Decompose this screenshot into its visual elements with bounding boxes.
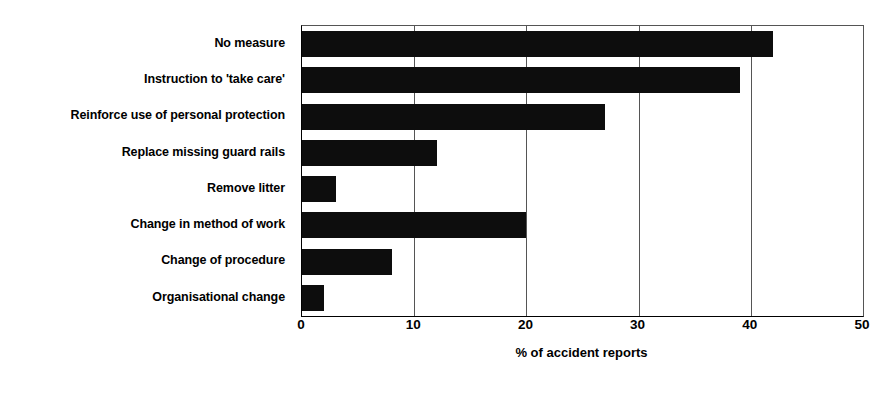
category-label: Instruction to 'take care' (144, 73, 285, 86)
category-label-row: Reinforce use of personal protection (0, 98, 293, 134)
x-tick-label: 30 (630, 318, 645, 332)
bar (302, 67, 740, 93)
category-label: Remove litter (207, 182, 285, 195)
category-label-row: Replace missing guard rails (0, 134, 293, 170)
x-axis-title: % of accident reports (301, 345, 862, 360)
x-axis-tick-labels: 01020304050 (0, 318, 892, 340)
plot-area (301, 25, 864, 317)
bars-layer (302, 26, 863, 316)
bar (302, 285, 324, 311)
bar-row (302, 135, 863, 171)
category-label-row: Organisational change (0, 279, 293, 315)
category-label-row: Instruction to 'take care' (0, 61, 293, 97)
category-label: Change in method of work (130, 218, 285, 231)
x-tick-label: 50 (854, 318, 869, 332)
category-label: Reinforce use of personal protection (71, 109, 286, 122)
bar-chart: No measure Instruction to 'take care' Re… (0, 0, 892, 405)
category-label: Organisational change (152, 291, 285, 304)
category-label: No measure (214, 37, 285, 50)
bar-row (302, 280, 863, 316)
x-tick-label: 0 (297, 318, 305, 332)
bar-row (302, 99, 863, 135)
bar (302, 176, 336, 202)
bar (302, 249, 392, 275)
bar-row (302, 244, 863, 280)
category-label-row: Remove litter (0, 170, 293, 206)
bar (302, 212, 526, 238)
category-label-row: No measure (0, 25, 293, 61)
bar-row (302, 62, 863, 98)
bar (302, 140, 437, 166)
bar (302, 104, 605, 130)
x-tick-label: 40 (742, 318, 757, 332)
bar-row (302, 171, 863, 207)
bar (302, 31, 773, 57)
x-tick-label: 20 (518, 318, 533, 332)
x-tick-label: 10 (406, 318, 421, 332)
category-label: Replace missing guard rails (122, 146, 285, 159)
category-label-row: Change of procedure (0, 243, 293, 279)
category-label: Change of procedure (161, 254, 285, 267)
category-axis-labels: No measure Instruction to 'take care' Re… (0, 25, 293, 315)
category-label-row: Change in method of work (0, 206, 293, 242)
bar-row (302, 207, 863, 243)
bar-row (302, 26, 863, 62)
